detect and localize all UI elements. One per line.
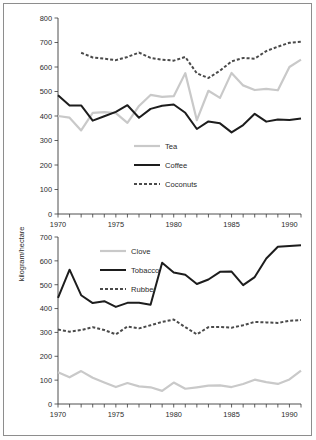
top-chart-legend-label-coffee: Coffee [165, 161, 187, 170]
bottom-chart-x-tick-label: 1985 [223, 410, 239, 419]
bottom-chart-x-tick-label: 1975 [108, 410, 124, 419]
chart-figure: 0100200300400500600700800197019751980198… [0, 0, 316, 440]
top-chart-y-tick-label: 800 [40, 14, 52, 23]
bottom-chart-series-tobacco [58, 245, 301, 307]
bottom-chart-y-tick-label: 100 [40, 376, 52, 385]
top-chart-x-tick-label: 1975 [108, 220, 124, 229]
top-chart-x-tick-label: 1990 [281, 220, 297, 229]
top-chart-y-tick-label: 600 [40, 63, 52, 72]
bottom-chart-x-tick-label: 1980 [165, 410, 181, 419]
bottom-chart-y-tick-label: 700 [40, 233, 52, 242]
bottom-chart-legend-label-tobacco: Tobacco [131, 266, 159, 275]
y-axis-title: kilogram/hectare [17, 227, 26, 282]
top-chart-y-tick-label: 0 [48, 210, 52, 219]
top-chart-x-tick-label: 1980 [165, 220, 181, 229]
top-chart-legend-label-coconuts: Coconuts [165, 180, 197, 189]
bottom-chart-y-tick-label: 0 [48, 400, 52, 409]
bottom-chart-y-tick-label: 200 [40, 352, 52, 361]
dual-line-chart-svg: 0100200300400500600700800197019751980198… [4, 4, 311, 435]
top-chart-legend-label-tea: Tea [165, 142, 178, 151]
bottom-chart-series-clove [58, 371, 301, 391]
top-chart-x-tick-label: 1970 [50, 220, 66, 229]
top-chart-y-tick-label: 400 [40, 112, 52, 121]
bottom-chart-y-tick-label: 600 [40, 257, 52, 266]
bottom-chart-y-tick-label: 400 [40, 304, 52, 313]
bottom-chart-x-tick-label: 1970 [50, 410, 66, 419]
figure-frame: 0100200300400500600700800197019751980198… [3, 3, 312, 436]
top-chart-y-tick-label: 200 [40, 161, 52, 170]
top-chart-y-tick-label: 700 [40, 38, 52, 47]
top-chart-series-coconuts [81, 42, 301, 78]
top-chart-x-tick-label: 1985 [223, 220, 239, 229]
top-chart-y-tick-label: 500 [40, 87, 52, 96]
bottom-chart-y-tick-label: 500 [40, 281, 52, 290]
top-chart-y-tick-label: 300 [40, 136, 52, 145]
top-chart: 0100200300400500600700800197019751980198… [40, 14, 301, 229]
bottom-chart-x-tick-label: 1990 [281, 410, 297, 419]
bottom-chart-series-rubber [58, 320, 301, 335]
bottom-chart-legend-label-clove: Clove [131, 247, 150, 256]
bottom-chart-legend-label-rubber: Rubber [131, 285, 156, 294]
top-chart-y-tick-label: 100 [40, 185, 52, 194]
bottom-chart: 0100200300400500600700197019751980198519… [40, 233, 301, 419]
bottom-chart-y-tick-label: 300 [40, 328, 52, 337]
